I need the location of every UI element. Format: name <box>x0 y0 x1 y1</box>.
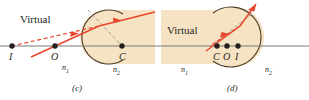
medium-label-n2-d: n2 <box>265 66 272 76</box>
medium-fill-c <box>80 10 155 64</box>
medium-label-n2-d-sub: 2 <box>269 70 272 76</box>
point-label-C-c: C <box>119 52 126 62</box>
medium-region-c <box>80 10 155 64</box>
medium-label-n1-d-sub: 1 <box>185 70 188 76</box>
point-O-d <box>224 43 229 48</box>
medium-label-n2-c-sub: 2 <box>117 70 120 76</box>
point-O-c <box>52 43 57 48</box>
panel-caption-c: (c) <box>72 84 82 93</box>
point-label-I-c: I <box>9 52 12 62</box>
medium-label-n1-d: n1 <box>181 66 188 76</box>
point-label-C-d: C <box>213 52 220 62</box>
point-label-I-d: I <box>235 52 238 62</box>
virtual-label-d: Virtual <box>167 25 198 36</box>
panel-caption-d: (d) <box>227 84 238 93</box>
point-I-d <box>235 43 240 48</box>
medium-label-n2-c: n2 <box>113 66 120 76</box>
medium-label-n1-c: n1 <box>62 64 69 74</box>
point-label-O-d: O <box>223 52 230 62</box>
point-C-d <box>214 43 219 48</box>
point-I-c <box>9 43 14 48</box>
panel-d: Virtual C O I n1 n2 (d) <box>155 0 309 100</box>
panel-c: Virtual I O C n1 n2 (c) <box>0 0 155 100</box>
point-C-c <box>119 43 124 48</box>
virtual-label-c: Virtual <box>20 14 51 25</box>
medium-label-n1-c-sub: 1 <box>66 68 69 74</box>
refracted-ray-arrowhead-d <box>248 4 256 12</box>
point-label-O-c: O <box>51 52 58 62</box>
optics-figure: Virtual I O C n1 n2 (c) <box>0 0 309 100</box>
